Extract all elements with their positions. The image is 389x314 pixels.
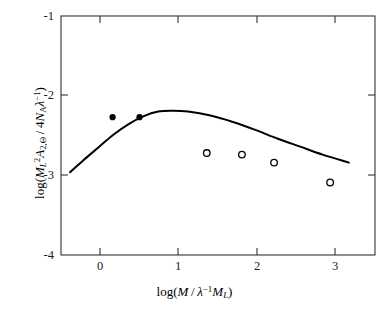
x-axis-title: log(M / λ−1ML) xyxy=(0,284,389,300)
data-point-open xyxy=(203,150,210,157)
x-tick-label-3: 3 xyxy=(332,259,338,274)
y-axis-ticks xyxy=(61,95,68,175)
x-axis-ticks xyxy=(100,248,335,255)
plot-area xyxy=(0,0,389,314)
filled-data-points xyxy=(109,114,142,120)
data-point-open xyxy=(239,151,246,158)
y-axis-ticks-right xyxy=(368,95,375,175)
y-axis-title: log(ML2A2,Θ / 4NAλ−1) xyxy=(32,23,48,263)
plot-frame xyxy=(61,16,375,255)
data-point-filled xyxy=(109,114,115,120)
data-point-open xyxy=(271,159,278,166)
x-tick-label-2: 2 xyxy=(254,259,260,274)
open-data-points xyxy=(203,150,333,186)
data-point-open xyxy=(327,179,334,186)
data-point-filled xyxy=(136,114,142,120)
x-axis-ticks-top xyxy=(100,16,335,23)
y-tick-label-minus1: -1 xyxy=(36,9,54,24)
x-tick-label-1: 1 xyxy=(175,259,181,274)
x-tick-label-0: 0 xyxy=(97,259,103,274)
figure-container: 0 1 2 3 -1 -2 -3 -4 log(M / λ−1ML) log(M… xyxy=(0,0,389,314)
